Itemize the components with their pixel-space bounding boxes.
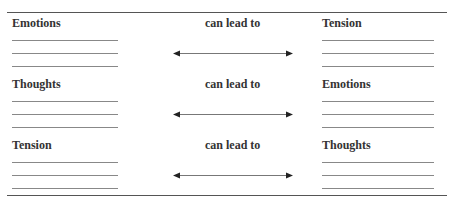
row-2-left-blank-3[interactable] (12, 127, 118, 128)
row-1-right-label: Tension (322, 16, 362, 30)
row-1-left-blank-2[interactable] (12, 53, 118, 54)
row-2-left-label: Thoughts (12, 77, 61, 91)
double-arrow-icon (173, 172, 293, 179)
row-1-right-blank-2[interactable] (322, 53, 434, 54)
row-3-right-blank-2[interactable] (322, 175, 434, 176)
top-rule (7, 12, 447, 13)
row-2-left-blank-1[interactable] (12, 101, 118, 102)
row-3-right-blank-3[interactable] (322, 188, 434, 189)
row-1-left-label: Emotions (12, 16, 61, 30)
double-arrow-icon (173, 111, 293, 118)
row-3-left-blank-2[interactable] (12, 175, 118, 176)
row-3-right-label: Thoughts (322, 138, 371, 152)
row-1-right-blank-3[interactable] (322, 66, 434, 67)
row-2-middle-label: can lead to (205, 77, 260, 91)
bottom-rule (7, 195, 447, 196)
row-2-right-blank-1[interactable] (322, 101, 434, 102)
row-1-left-blank-1[interactable] (12, 40, 118, 41)
row-2-left-blank-2[interactable] (12, 114, 118, 115)
row-3-right-blank-1[interactable] (322, 162, 434, 163)
row-3-left-blank-3[interactable] (12, 188, 118, 189)
row-2-right-blank-3[interactable] (322, 127, 434, 128)
row-1-middle-label: can lead to (205, 16, 260, 30)
row-3-left-label: Tension (12, 138, 52, 152)
row-2-right-label: Emotions (322, 77, 371, 91)
row-2-right-blank-2[interactable] (322, 114, 434, 115)
row-1-left-blank-3[interactable] (12, 66, 118, 67)
row-1-right-blank-1[interactable] (322, 40, 434, 41)
row-3-middle-label: can lead to (205, 138, 260, 152)
double-arrow-icon (173, 50, 293, 57)
row-3-left-blank-1[interactable] (12, 162, 118, 163)
